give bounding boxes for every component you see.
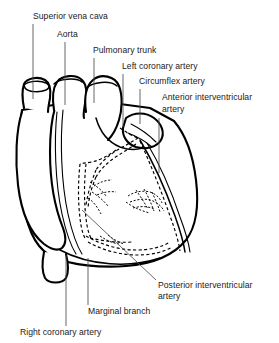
label-aorta: Aorta — [57, 29, 78, 39]
label-anterior-interventricular-artery-line2: artery — [162, 104, 185, 114]
label-superior-vena-cava: Superior vena cava — [33, 11, 108, 21]
heart-anatomy-figure: Superior vena cava Aorta Pulmonary trunk… — [0, 0, 279, 343]
label-right-coronary-artery: Right coronary artery — [20, 327, 102, 337]
label-marginal-branch: Marginal branch — [88, 306, 151, 316]
label-pulmonary-trunk: Pulmonary trunk — [93, 45, 157, 55]
label-left-coronary-artery: Left coronary artery — [122, 61, 198, 71]
inferior-vena-cava-stub — [43, 252, 68, 283]
label-anterior-interventricular-artery-line1: Anterior interventricular — [162, 92, 252, 102]
label-posterior-interventricular-artery-line2: artery — [158, 291, 181, 301]
heart-diagram-svg: Superior vena cava Aorta Pulmonary trunk… — [0, 0, 279, 343]
label-posterior-interventricular-artery-line1: Posterior interventricular — [158, 280, 253, 290]
label-circumflex-artery: Circumflex artery — [139, 76, 205, 86]
